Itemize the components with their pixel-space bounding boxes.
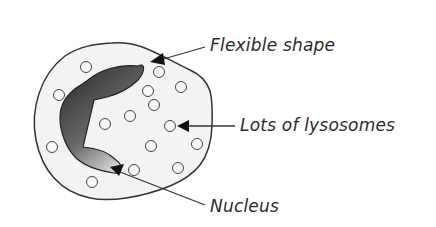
label-flexible-shape: Flexible shape [210, 35, 335, 55]
diagram-canvas: Flexible shape Lots of lysosomes Nucleus [0, 0, 436, 227]
label-nucleus: Nucleus [210, 196, 279, 216]
label-lysosomes: Lots of lysosomes [240, 115, 395, 135]
